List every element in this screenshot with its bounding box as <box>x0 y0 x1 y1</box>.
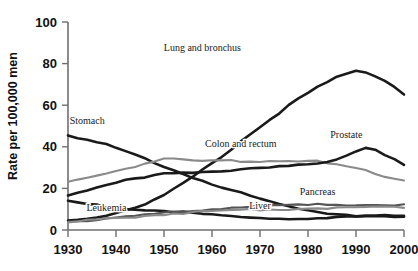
y-tick-label: 100 <box>35 15 57 30</box>
y-tick-label: 0 <box>50 223 57 238</box>
series-label: Pancreas <box>300 186 336 197</box>
series-label: Leukemia <box>86 202 127 213</box>
x-tick-label: 1970 <box>246 242 275 257</box>
series-label: Lung and bronchus <box>164 42 241 53</box>
x-tick-label: 1990 <box>342 242 371 257</box>
x-tick-label: 1930 <box>54 242 83 257</box>
series-label: Prostate <box>330 129 363 140</box>
x-tick-label: 2000 <box>390 242 418 257</box>
y-axis-title: Rate per 100,000 men <box>6 52 20 180</box>
x-tick-label: 1950 <box>150 242 179 257</box>
x-tick-label: 1940 <box>102 242 131 257</box>
y-tick-label: 40 <box>43 139 57 154</box>
x-tick-label: 1960 <box>198 242 227 257</box>
cancer-mortality-line-chart: Rate per 100,000 men 020406080100 193019… <box>0 0 418 271</box>
series-line <box>68 148 404 196</box>
y-tick-label: 60 <box>43 98 57 113</box>
x-tick-label: 1980 <box>294 242 323 257</box>
y-tick-label: 20 <box>43 181 57 196</box>
x-axis-ticks: 19301940195019601970198019902000 <box>54 230 418 257</box>
series-label: Liver <box>249 200 271 211</box>
series-label: Colon and rectum <box>205 138 277 149</box>
chart-canvas: Rate per 100,000 men 020406080100 193019… <box>0 0 418 271</box>
series-annotations: Lung and bronchusLung and bronchusStomac… <box>70 42 363 213</box>
y-tick-label: 80 <box>43 56 57 71</box>
y-axis-ticks: 020406080100 <box>35 15 68 238</box>
series-label: Stomach <box>70 115 105 126</box>
